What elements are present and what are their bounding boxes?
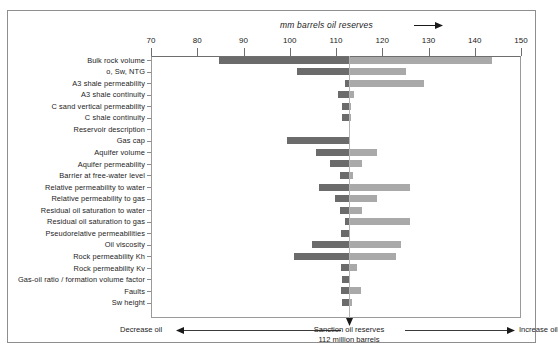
category-label: Gas-oil ratio / formation volume factor — [0, 275, 145, 284]
tornado-row: Pseudorelative permeabilities — [0, 227, 544, 239]
tornado-row: Gas-oil ratio / formation volume factor — [0, 274, 544, 286]
right-arrow-icon — [414, 21, 444, 30]
bar-increase — [349, 184, 410, 191]
category-tick — [147, 95, 151, 96]
category-tick — [147, 233, 151, 234]
category-label: Faults — [0, 287, 145, 296]
base-case-line — [349, 56, 350, 322]
category-label: A3 shale permeability — [0, 79, 145, 88]
tornado-row: Residual oil saturation to water — [0, 204, 544, 216]
category-tick — [147, 303, 151, 304]
tornado-row: Barrier at free-water level — [0, 170, 544, 182]
category-tick — [147, 175, 151, 176]
bar-increase — [349, 195, 377, 202]
bar-decrease — [341, 287, 349, 294]
category-label: Rock permeability Kv — [0, 264, 145, 273]
bar-decrease — [294, 253, 349, 260]
category-tick — [147, 72, 151, 73]
footer-base-case: Sanction oil reserves 112 million barrel… — [314, 325, 385, 345]
category-tick — [147, 199, 151, 200]
footer-increase-label: Increase oil — [519, 325, 558, 334]
category-label: Residual oil saturation to gas — [0, 217, 145, 226]
category-tick — [147, 256, 151, 257]
category-label: Pseudorelative permeabilities — [0, 229, 145, 238]
category-tick — [147, 245, 151, 246]
x-tick-label: 110 — [330, 36, 343, 45]
x-tick-label: 80 — [193, 36, 202, 45]
category-label: Relative permeability to gas — [0, 194, 145, 203]
category-label: C shale continuity — [0, 113, 145, 122]
bar-increase — [349, 241, 401, 248]
bar-increase — [349, 207, 362, 214]
tornado-row: A3 shale continuity — [0, 89, 544, 101]
category-tick — [147, 222, 151, 223]
category-tick — [147, 152, 151, 153]
x-tick-label: 70 — [147, 36, 156, 45]
footer-base-case-value: 112 million barrels — [314, 335, 385, 345]
bar-decrease — [335, 195, 349, 202]
category-label: o, Sw, NTG — [0, 67, 145, 76]
tornado-row: o, Sw, NTG — [0, 66, 544, 78]
x-tick-label: 130 — [422, 36, 435, 45]
bar-decrease — [219, 57, 349, 64]
tornado-row: Reservoir description — [0, 124, 544, 136]
bar-decrease — [287, 137, 349, 144]
tornado-row: C shale continuity — [0, 112, 544, 124]
tornado-row: Rock permeability Kh — [0, 251, 544, 263]
category-label: Oil viscosity — [0, 240, 145, 249]
bars-layer: Bulk rock volumeo, Sw, NTGA3 shale perme… — [0, 56, 544, 318]
bar-decrease — [297, 68, 349, 75]
x-tick-label: 140 — [468, 36, 481, 45]
tornado-row: Sw height — [0, 297, 544, 309]
category-tick — [147, 118, 151, 119]
tornado-row: Gas cap — [0, 135, 544, 147]
bar-decrease — [338, 91, 349, 98]
category-label: Reservoir description — [0, 125, 145, 134]
x-tick-label: 120 — [376, 36, 389, 45]
bar-increase — [349, 68, 406, 75]
category-label: Residual oil saturation to water — [0, 206, 145, 215]
bar-increase — [349, 218, 410, 225]
tornado-row: Aquifer volume — [0, 147, 544, 159]
axis-title: mm barrels oil reserves — [280, 20, 373, 30]
bar-decrease — [319, 184, 349, 191]
category-label: A3 shale continuity — [0, 90, 145, 99]
category-tick — [147, 83, 151, 84]
category-label: Relative permeability to water — [0, 183, 145, 192]
bar-increase — [349, 253, 396, 260]
bar-decrease — [330, 160, 349, 167]
category-tick — [147, 141, 151, 142]
category-label: Barrier at free-water level — [0, 171, 145, 180]
x-tick-label: 150 — [514, 36, 527, 45]
tornado-row: Rock permeability Kv — [0, 262, 544, 274]
tornado-row: C sand vertical permeability — [0, 100, 544, 112]
bar-increase — [349, 287, 361, 294]
tornado-row: Bulk rock volume — [0, 54, 544, 66]
category-label: Aquifer volume — [0, 148, 145, 157]
footer-right-rule — [405, 330, 507, 331]
category-tick — [147, 106, 151, 107]
category-label: Sw height — [0, 298, 145, 307]
bar-decrease — [341, 230, 349, 237]
category-label: Gas cap — [0, 136, 145, 145]
category-label: C sand vertical permeability — [0, 102, 145, 111]
bar-decrease — [341, 264, 349, 271]
category-tick — [147, 164, 151, 165]
bar-increase — [349, 80, 424, 87]
category-tick — [147, 129, 151, 130]
category-label: Rock permeability Kh — [0, 252, 145, 261]
bar-decrease — [340, 207, 349, 214]
category-tick — [147, 279, 151, 280]
category-tick — [147, 60, 151, 61]
category-tick — [147, 187, 151, 188]
tornado-row: Faults — [0, 285, 544, 297]
bar-increase — [349, 149, 377, 156]
tornado-row: Relative permeability to water — [0, 181, 544, 193]
bar-increase — [349, 264, 357, 271]
footer-base-case-title: Sanction oil reserves — [314, 325, 385, 335]
tornado-row: Relative permeability to gas — [0, 193, 544, 205]
x-tick-label: 90 — [239, 36, 248, 45]
x-tick-label: 100 — [283, 36, 296, 45]
bar-decrease — [340, 172, 349, 179]
